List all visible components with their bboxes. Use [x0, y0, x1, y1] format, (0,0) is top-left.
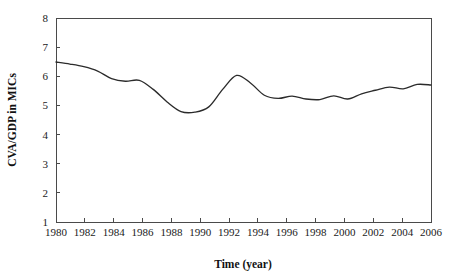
x-tick-label: 2000 — [333, 226, 356, 238]
y-tick-label: 3 — [43, 158, 49, 170]
y-tick-label: 2 — [43, 187, 49, 199]
x-axis-tick-labels: 1980198219841986198819901992199419961998… — [45, 226, 443, 238]
y-tick-label: 4 — [43, 129, 49, 141]
plot-frame — [56, 18, 431, 222]
x-tick-label: 1988 — [160, 226, 183, 238]
x-tick-label: 1996 — [276, 226, 299, 238]
x-tick-label: 1990 — [189, 226, 212, 238]
line-chart: 1980198219841986198819901992199419961998… — [0, 0, 455, 279]
x-tick-label: 1986 — [132, 226, 155, 238]
x-tick-label: 1998 — [305, 226, 328, 238]
y-tick-label: 7 — [43, 41, 49, 53]
y-axis-title: CVA/GDP in MICs — [6, 73, 18, 167]
y-axis-tick-labels: 12345678 — [43, 12, 49, 228]
x-tick-label: 2002 — [362, 226, 384, 238]
y-tick-label: 8 — [43, 12, 49, 24]
x-tick-label: 1980 — [45, 226, 68, 238]
y-axis-ticks — [56, 18, 60, 222]
x-axis-ticks — [56, 218, 431, 222]
y-tick-label: 6 — [43, 70, 49, 82]
x-tick-label: 2004 — [391, 226, 414, 238]
y-tick-label: 5 — [43, 99, 49, 111]
data-series-line — [56, 62, 431, 113]
chart-figure: 1980198219841986198819901992199419961998… — [0, 0, 455, 279]
y-tick-label: 1 — [43, 216, 49, 228]
x-tick-label: 1994 — [247, 226, 270, 238]
x-tick-label: 1984 — [103, 226, 126, 238]
x-tick-label: 1992 — [218, 226, 240, 238]
x-tick-label: 1982 — [74, 226, 96, 238]
x-axis-title: Time (year) — [214, 258, 272, 271]
x-tick-label: 2006 — [420, 226, 443, 238]
